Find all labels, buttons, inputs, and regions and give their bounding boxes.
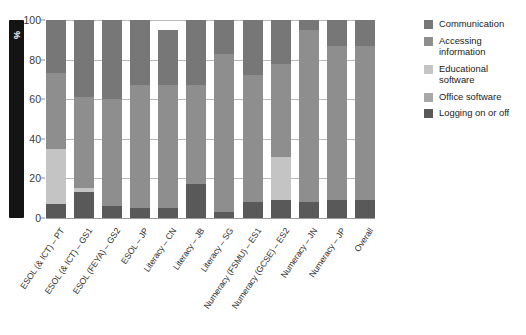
bar-segment[interactable] [271,64,291,157]
legend-swatch-icon [424,37,433,46]
bar-segment[interactable] [243,75,263,202]
legend-item-4[interactable]: Office software [424,91,524,103]
bar-segment[interactable] [130,85,150,208]
bar-segment[interactable] [130,20,150,85]
legend-item-2[interactable]: Accessing information [424,35,524,58]
bar-segment[interactable] [158,208,178,218]
bar-segment[interactable] [214,20,234,54]
bar-segment[interactable] [186,20,206,85]
legend-item-1[interactable]: Communication [424,18,524,30]
bar-segment[interactable] [299,20,319,30]
bar-segment[interactable] [214,54,234,212]
chart-root: % 020406080100 ESOL (& ICT) – PTESOL (& … [0,0,526,335]
legend-label: Office software [439,91,501,103]
bar-segment[interactable] [102,206,122,218]
bar-segment[interactable] [158,30,178,85]
bar-segment[interactable] [130,208,150,218]
bar-segment[interactable] [355,20,375,46]
y-tick-mark-40 [41,138,45,139]
legend-label: Accessing information [439,35,524,58]
gridline-0 [46,218,375,219]
x-axis-labels: ESOL (& ICT) – PTESOL (& ICT) – GS1ESOL … [46,222,375,332]
bar-5[interactable] [158,20,178,218]
legend-label: Communication [439,18,504,30]
legend-swatch-icon [424,65,433,74]
bar-segment[interactable] [327,20,347,46]
bar-segment[interactable] [271,20,291,64]
legend-item-3[interactable]: Educational software [424,63,524,86]
bar-segment[interactable] [299,30,319,202]
bar-segment[interactable] [102,99,122,206]
bar-12[interactable] [355,20,375,218]
y-tick-label-0: 0 [35,212,41,224]
bar-segment[interactable] [243,202,263,218]
legend-swatch-icon [424,93,433,102]
legend: CommunicationAccessing informationEducat… [424,18,524,124]
bar-segment[interactable] [46,204,66,218]
x-axis-label: Overall [352,226,375,254]
y-axis-label: % [12,31,22,39]
y-tick-label-60: 60 [29,93,41,105]
bar-segment[interactable] [46,20,66,73]
bar-3[interactable] [102,20,122,218]
bar-10[interactable] [299,20,319,218]
bar-segment[interactable] [74,97,94,188]
bar-segment[interactable] [355,200,375,218]
bar-6[interactable] [186,20,206,218]
bar-segment[interactable] [102,20,122,99]
bar-segment[interactable] [327,46,347,200]
bar-8[interactable] [243,20,263,218]
y-axis-percent-block: % [9,20,24,218]
y-tick-label-40: 40 [29,133,41,145]
bar-segment[interactable] [299,202,319,218]
bar-segment[interactable] [74,20,94,97]
bar-segment[interactable] [186,184,206,218]
bar-2[interactable] [74,20,94,218]
legend-swatch-icon [424,109,433,118]
bar-segment[interactable] [271,200,291,218]
bar-1[interactable] [46,20,66,218]
bar-9[interactable] [271,20,291,218]
bar-7[interactable] [214,20,234,218]
bar-segment[interactable] [46,149,66,204]
y-tick-label-100: 100 [23,14,41,26]
legend-label: Logging on or off [439,107,509,119]
y-tick-mark-80 [41,59,45,60]
bar-segment[interactable] [214,212,234,218]
bar-segment[interactable] [243,20,263,75]
y-tick-mark-60 [41,99,45,100]
bar-segment[interactable] [46,73,66,148]
legend-item-5[interactable]: Logging on or off [424,107,524,119]
plot-area: 020406080100 [46,20,375,218]
clipped-title [8,0,308,4]
bar-11[interactable] [327,20,347,218]
bar-segment[interactable] [271,157,291,201]
y-tick-label-20: 20 [29,172,41,184]
bar-segment[interactable] [74,192,94,218]
y-tick-mark-0 [41,218,45,219]
legend-swatch-icon [424,20,433,29]
bar-4[interactable] [130,20,150,218]
bar-group [46,20,375,218]
y-tick-mark-20 [41,178,45,179]
y-tick-mark-100 [41,20,45,21]
bar-segment[interactable] [327,200,347,218]
y-tick-label-80: 80 [29,54,41,66]
bar-segment[interactable] [158,85,178,208]
legend-label: Educational software [439,63,524,86]
bar-segment[interactable] [186,85,206,184]
bar-segment[interactable] [355,46,375,200]
